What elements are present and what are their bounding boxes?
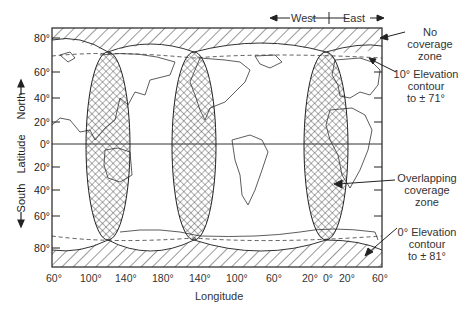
lat-tick: 40° <box>34 92 50 104</box>
lon-tick: 100° <box>80 272 102 284</box>
lat-tick: 0° <box>40 138 50 150</box>
east-label: East <box>343 12 365 24</box>
lat-tick: 80° <box>34 242 50 254</box>
satellite-footprints <box>86 52 348 240</box>
lat-tick: 20° <box>34 116 50 128</box>
lat-tick: 20° <box>34 161 50 173</box>
lon-tick: 20° <box>302 272 318 284</box>
longitude-axis-title: Longitude <box>195 290 243 302</box>
lon-tick: 100° <box>226 272 248 284</box>
lon-tick: 60° <box>46 272 62 284</box>
lon-tick: 0° <box>323 272 333 284</box>
zero-degree-contour-annotation: 0° Elevation contour to ± 81° <box>393 226 461 262</box>
lon-tick: 60° <box>372 272 388 284</box>
lon-tick: 20° <box>339 272 355 284</box>
lat-tick: 40° <box>34 184 50 196</box>
lon-tick: 60° <box>266 272 282 284</box>
lat-tick: 60° <box>34 66 50 78</box>
overlap-annotation: Overlapping coverage zone <box>393 172 461 208</box>
west-label: West <box>291 12 316 24</box>
ten-degree-contour-annotation: 10° Elevation contour to ± 71° <box>390 68 461 104</box>
latitude-ticks: 80° 60° 40° 20° 0° 20° 40° 60° 80° <box>26 0 50 314</box>
lat-tick: 60° <box>34 210 50 222</box>
lon-tick: 140° <box>115 272 137 284</box>
coverage-map <box>0 0 461 314</box>
lon-tick: 140° <box>189 272 211 284</box>
no-coverage-annotation: No coverage zone <box>400 26 460 62</box>
lon-tick: 180° <box>152 272 174 284</box>
lat-tick: 80° <box>34 32 50 44</box>
